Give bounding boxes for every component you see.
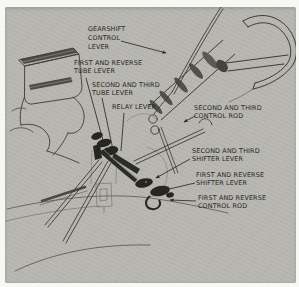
linkage-line-art — [5, 7, 296, 283]
leader-gearshift-control-lever — [121, 41, 166, 53]
steering-wheel — [214, 15, 296, 102]
label-second-and-third-shifter-lever: SECOND AND THIRD SHIFTER LEVER — [192, 148, 260, 163]
control-rods — [45, 119, 212, 243]
diagram-page: GEARSHIFT CONTROL LEVER FIRST AND REVERS… — [0, 0, 299, 287]
label-second-and-third-tube-lever: SECOND AND THIRD TUBE LEVER — [92, 82, 160, 97]
label-gearshift-control-lever: GEARSHIFT CONTROL LEVER — [88, 25, 125, 52]
label-first-and-reverse-tube-lever: FIRST AND REVERSE TUBE LEVER — [74, 60, 142, 75]
engine-block — [10, 48, 84, 163]
label-second-and-third-control-rod: SECOND AND THIRD CONTROL ROD — [194, 105, 262, 120]
leader-first-and-reverse-shifter-lever — [165, 183, 195, 190]
leader-relay-lever — [121, 113, 124, 151]
label-relay-lever: RELAY LEVER — [112, 104, 156, 112]
label-first-and-reverse-control-rod: FIRST AND REVERSE CONTROL ROD — [198, 195, 266, 210]
label-first-and-reverse-shifter-lever: FIRST AND REVERSE SHIFTER LEVER — [196, 172, 264, 187]
leader-second-and-third-shifter-lever — [156, 159, 190, 178]
leader-first-and-reverse-control-rod — [170, 200, 196, 201]
frame-rails — [6, 187, 228, 271]
